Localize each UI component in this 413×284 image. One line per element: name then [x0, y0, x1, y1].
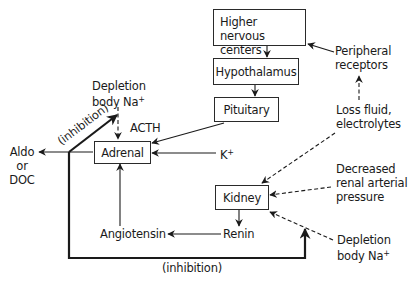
label-aldo-or-doc: Aldo or DOC [7, 145, 37, 187]
node-kidney: Kidney [215, 185, 269, 210]
node-higher-nervous-centers: Higher nervous centers [213, 9, 306, 46]
depletion-top-line1: Depletion [92, 79, 144, 93]
pressure-line3: pressure [336, 190, 407, 204]
label-peripheral-receptors: Peripheral receptors [335, 44, 391, 72]
node-hnc-line1: Higher nervous [220, 15, 305, 43]
depletion-bottom-sup: + [383, 249, 390, 258]
peripheral-line1: Peripheral [335, 44, 391, 58]
lossfluid-line1: Loss fluid, [336, 103, 401, 117]
node-hnc-line2: centers [220, 43, 305, 57]
inhibition-bottom-text: (inhibition) [162, 261, 222, 275]
pressure-line2: renal arterial [336, 176, 407, 190]
angiotensin-text: Angiotensin [100, 227, 166, 241]
aldo-line3: DOC [7, 173, 37, 187]
label-depletion-bottom: Depletion body Na+ [337, 233, 391, 263]
arrow-lossfluid-to-kidney [262, 133, 335, 183]
node-adrenal-label: Adrenal [101, 146, 144, 160]
label-loss-fluid: Loss fluid, electrolytes [336, 103, 401, 131]
inhibition-bottom-loop [69, 152, 305, 258]
label-k-plus: K+ [220, 146, 234, 162]
arrow-depletion-bottom-to-kidney [270, 212, 333, 240]
node-hypothalamus-label: Hypothalamus [216, 65, 297, 79]
aldo-line1: Aldo [7, 145, 37, 159]
k-sup: + [227, 148, 234, 157]
renin-text: Renin [223, 227, 254, 241]
acth-text: ACTH [130, 121, 161, 135]
label-angiotensin: Angiotensin [100, 227, 166, 241]
node-pituitary-label: Pituitary [223, 103, 269, 117]
label-renin: Renin [223, 227, 254, 241]
lossfluid-line2: electrolytes [336, 117, 401, 131]
arrow-peripheral-to-hnc [308, 44, 334, 52]
arrow-pituitary-to-adrenal [152, 123, 224, 143]
label-acth: ACTH [130, 121, 161, 135]
node-pituitary: Pituitary [214, 97, 279, 122]
node-adrenal: Adrenal [94, 141, 151, 164]
node-hypothalamus: Hypothalamus [213, 58, 299, 85]
aldo-line2: or [7, 159, 37, 173]
label-decreased-pressure: Decreased renal arterial pressure [336, 162, 407, 204]
peripheral-line2: receptors [335, 58, 391, 72]
node-kidney-label: Kidney [223, 191, 261, 205]
label-inhibition-bottom: (inhibition) [162, 261, 222, 275]
depletion-bottom-line2: body Na [337, 249, 383, 263]
arrow-pressure-to-kidney [270, 187, 331, 195]
depletion-bottom-line1: Depletion [337, 233, 391, 247]
pressure-line1: Decreased [336, 162, 407, 176]
depletion-top-sup: + [138, 95, 145, 104]
